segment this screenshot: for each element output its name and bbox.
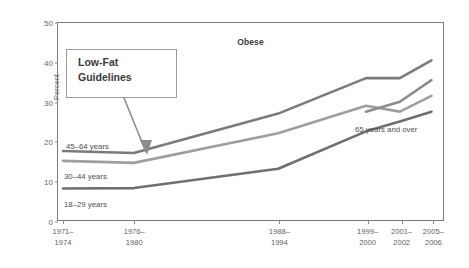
y-tick-label: 50 xyxy=(31,19,53,28)
y-tick-mark xyxy=(55,222,58,223)
x-tick-mark xyxy=(63,220,64,224)
x-tick-mark xyxy=(134,220,135,224)
y-tick-label: 30 xyxy=(31,98,53,107)
x-tick-label-line-2: 1994 xyxy=(269,238,290,249)
series-label: 18–29 years xyxy=(64,200,107,209)
x-tick-label: 1999–2000 xyxy=(357,227,378,248)
annotation-line-1: Low-Fat xyxy=(78,55,176,70)
x-tick-mark xyxy=(433,220,434,224)
x-tick-mark xyxy=(368,220,369,224)
annotation-line-2: Guidelines xyxy=(78,70,176,85)
x-tick-label-line-1: 1976– xyxy=(124,227,145,238)
x-tick-label: 2001–2002 xyxy=(391,227,412,248)
x-tick-label-line-2: 1974 xyxy=(52,238,73,249)
x-tick-label-line-2: 2006 xyxy=(423,238,444,249)
y-tick-label: 0 xyxy=(31,218,53,227)
x-tick-label-line-1: 1999– xyxy=(357,227,378,238)
y-tick-label: 40 xyxy=(31,58,53,67)
x-tick-label-line-1: 1971– xyxy=(52,227,73,238)
chart-container: Low-Fat Guidelines Obese 01020304050 Per… xyxy=(0,0,469,268)
y-tick-label: 20 xyxy=(31,138,53,147)
x-tick-mark xyxy=(402,220,403,224)
y-tick-label: 10 xyxy=(31,178,53,187)
x-tick-label: 1988–1994 xyxy=(269,227,290,248)
x-tick-label: 1976–1980 xyxy=(124,227,145,248)
x-tick-label: 2005–2006 xyxy=(423,227,444,248)
series-label: 65 years and over xyxy=(355,125,417,134)
x-tick-label-line-1: 1988– xyxy=(269,227,290,238)
annotation-low-fat-guidelines: Low-Fat Guidelines xyxy=(66,49,177,98)
series-label: 30–44 years xyxy=(64,172,107,181)
x-tick-label-line-1: 2001– xyxy=(391,227,412,238)
series-label: 45–64 years xyxy=(66,142,109,151)
x-tick-label-line-2: 2002 xyxy=(391,238,412,249)
x-tick-label: 1971–1974 xyxy=(52,227,73,248)
x-tick-label-line-2: 2000 xyxy=(357,238,378,249)
x-tick-mark xyxy=(279,220,280,224)
x-tick-label-line-2: 1980 xyxy=(124,238,145,249)
x-tick-label-line-1: 2005– xyxy=(423,227,444,238)
